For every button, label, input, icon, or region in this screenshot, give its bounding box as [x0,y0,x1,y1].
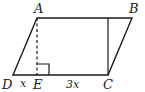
label-a: A [33,1,43,16]
parallelogram-diagram: A B D E C x 3x [0,0,145,92]
label-ec-length: 3x [66,78,80,91]
label-c: C [103,77,113,92]
label-e: E [32,77,43,92]
label-de-length: x [20,77,27,90]
parallelogram-abcd [13,18,132,75]
right-angle-marker [37,64,49,75]
label-d: D [1,77,13,92]
label-b: B [128,1,139,16]
